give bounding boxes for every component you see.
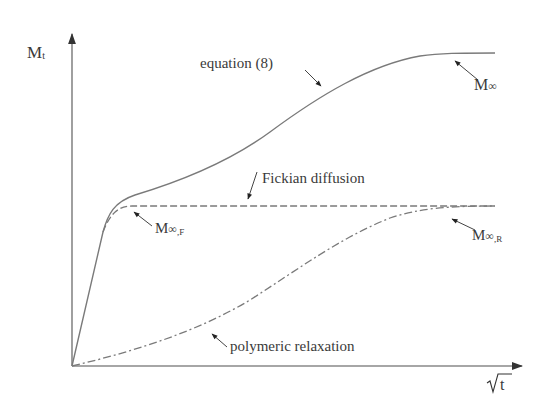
m-inf-symbol: ∞ xyxy=(488,79,497,93)
m-inf-r-main: M xyxy=(472,227,485,243)
fickian-diffusion-text: Fickian diffusion xyxy=(262,170,365,186)
x-axis-label-t: t xyxy=(500,376,504,393)
m-inf-f-pointer xyxy=(134,212,152,226)
m-inf-f-sub: ,F xyxy=(177,227,184,237)
polymeric-pointer xyxy=(212,334,227,347)
equation-8-label: equation (8) xyxy=(200,56,273,71)
y-axis-label: Mt xyxy=(27,44,45,61)
equation-8-pointer xyxy=(305,70,321,86)
m-inf-label: M∞ xyxy=(474,77,497,93)
polymeric-relaxation-label: polymeric relaxation xyxy=(230,339,355,354)
m-inf-main: M xyxy=(474,76,488,93)
m-inf-f-symbol: ∞ xyxy=(168,222,177,236)
fickian-pointer xyxy=(248,172,257,199)
annotation-pointers xyxy=(134,61,478,347)
y-axis-label-sub: t xyxy=(42,50,45,61)
axes xyxy=(72,34,522,366)
fickian-diffusion-label: Fickian diffusion xyxy=(262,171,365,186)
x-axis-label: t xyxy=(500,377,504,393)
equation-8-text: equation (8) xyxy=(200,55,273,71)
y-axis-label-main: M xyxy=(27,43,42,62)
m-inf-r-label: M∞,R xyxy=(472,228,502,244)
m-inf-f-main: M xyxy=(155,220,168,236)
polymeric-relaxation-text: polymeric relaxation xyxy=(230,338,355,354)
m-inf-f-label: M∞,F xyxy=(155,221,184,237)
m-inf-r-sub: ,R xyxy=(494,234,502,244)
m-inf-r-symbol: ∞ xyxy=(485,229,494,243)
